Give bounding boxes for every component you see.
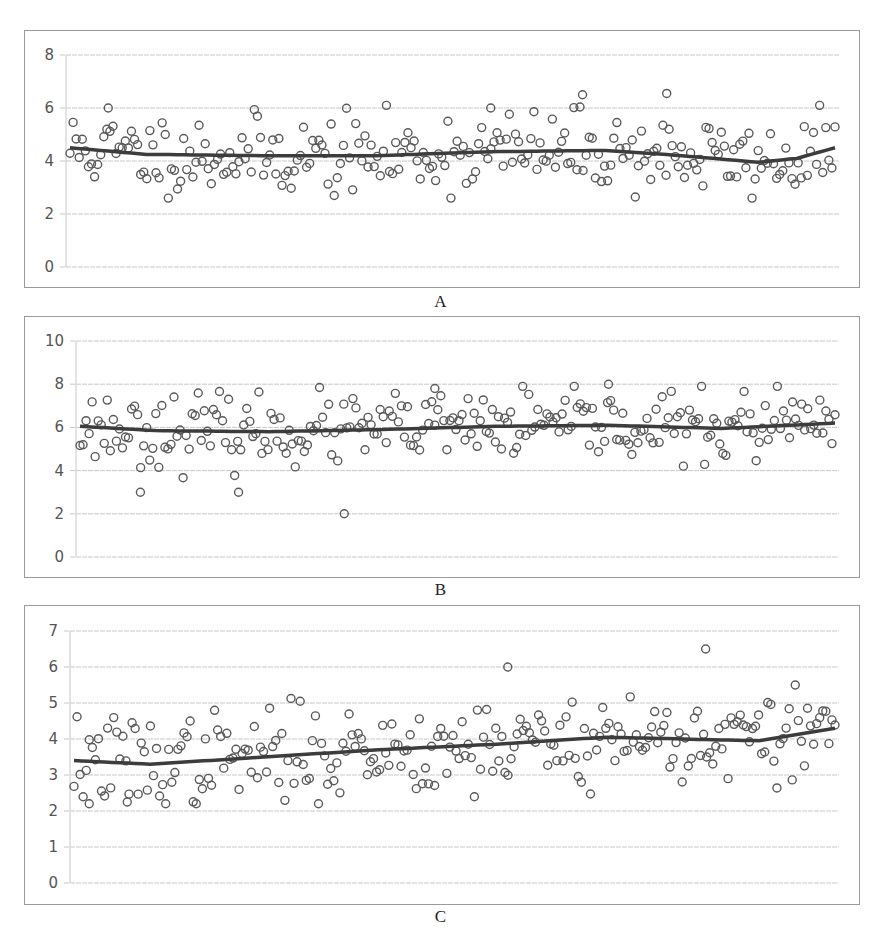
- data-point: [333, 174, 341, 182]
- data-point: [594, 448, 602, 456]
- data-point: [421, 764, 429, 772]
- data-point: [355, 139, 363, 147]
- data-point: [831, 411, 839, 419]
- data-point: [281, 796, 289, 804]
- y-tick-label: 5: [48, 694, 58, 712]
- data-point: [484, 155, 492, 163]
- data-point: [349, 395, 357, 403]
- data-point: [663, 89, 671, 97]
- data-point: [755, 438, 763, 446]
- data-point: [107, 784, 115, 792]
- data-point: [458, 718, 466, 726]
- data-point: [472, 168, 480, 176]
- data-point: [91, 453, 99, 461]
- data-point: [231, 471, 239, 479]
- data-point: [85, 736, 93, 744]
- data-point: [149, 444, 157, 452]
- scatter-plot-c: 01234567: [25, 606, 861, 906]
- data-point: [667, 387, 675, 395]
- data-point: [483, 705, 491, 713]
- data-point: [409, 770, 417, 778]
- data-point: [809, 128, 817, 136]
- data-point: [579, 91, 587, 99]
- data-point: [447, 194, 455, 202]
- data-point: [235, 785, 243, 793]
- data-point: [533, 165, 541, 173]
- data-point: [626, 693, 634, 701]
- scatter-plot-a: 02468: [25, 31, 861, 289]
- data-point: [724, 775, 732, 783]
- data-point: [786, 434, 794, 442]
- data-point: [770, 757, 778, 765]
- data-point: [397, 762, 405, 770]
- data-point: [648, 723, 656, 731]
- data-point: [82, 766, 90, 774]
- data-point: [100, 439, 108, 447]
- data-point: [400, 433, 408, 441]
- data-point: [156, 792, 164, 800]
- data-point: [678, 778, 686, 786]
- data-point: [800, 762, 808, 770]
- data-point: [740, 387, 748, 395]
- data-point: [773, 784, 781, 792]
- scatter-plot-b: 0246810: [25, 317, 861, 579]
- data-point: [548, 115, 556, 123]
- data-point: [492, 724, 500, 732]
- y-tick-label: 10: [45, 332, 64, 350]
- data-point: [813, 160, 821, 168]
- data-point: [410, 137, 418, 145]
- data-point: [761, 402, 769, 410]
- y-tick-label: 4: [48, 730, 58, 748]
- data-point: [379, 721, 387, 729]
- y-tick-label: 8: [54, 375, 64, 393]
- data-point: [222, 439, 230, 447]
- data-point: [828, 164, 836, 172]
- data-point: [674, 163, 682, 171]
- data-point: [143, 786, 151, 794]
- data-point: [746, 410, 754, 418]
- data-point: [367, 141, 375, 149]
- data-point: [611, 757, 619, 765]
- data-point: [284, 757, 292, 765]
- data-point: [290, 779, 298, 787]
- data-point: [237, 446, 245, 454]
- data-point: [327, 120, 335, 128]
- data-point: [308, 737, 316, 745]
- data-point: [195, 776, 203, 784]
- data-point: [685, 406, 693, 414]
- y-tick-label: 8: [44, 46, 54, 64]
- data-point: [278, 181, 286, 189]
- data-point: [488, 406, 496, 414]
- data-point: [334, 457, 342, 465]
- data-point: [568, 698, 576, 706]
- data-point: [345, 710, 353, 718]
- y-tick-label: 7: [48, 622, 58, 640]
- data-point: [391, 389, 399, 397]
- data-point: [770, 416, 778, 424]
- data-point: [140, 442, 148, 450]
- data-point: [228, 446, 236, 454]
- y-tick-label: 6: [44, 99, 54, 117]
- data-point: [161, 131, 169, 139]
- data-point: [658, 393, 666, 401]
- data-point: [75, 153, 83, 161]
- data-point: [104, 724, 112, 732]
- data-point: [136, 488, 144, 496]
- data-point: [112, 437, 120, 445]
- data-point: [470, 793, 478, 801]
- data-point: [247, 168, 255, 176]
- data-point: [164, 194, 172, 202]
- data-point: [525, 390, 533, 398]
- data-point: [275, 779, 283, 787]
- data-point: [395, 165, 403, 173]
- data-point: [260, 171, 268, 179]
- data-point: [137, 739, 145, 747]
- data-point: [325, 400, 333, 408]
- data-point: [643, 414, 651, 422]
- data-point: [541, 727, 549, 735]
- data-point: [73, 713, 81, 721]
- data-point: [246, 417, 254, 425]
- data-point: [698, 382, 706, 390]
- data-point: [561, 129, 569, 137]
- y-tick-label: 2: [54, 505, 64, 523]
